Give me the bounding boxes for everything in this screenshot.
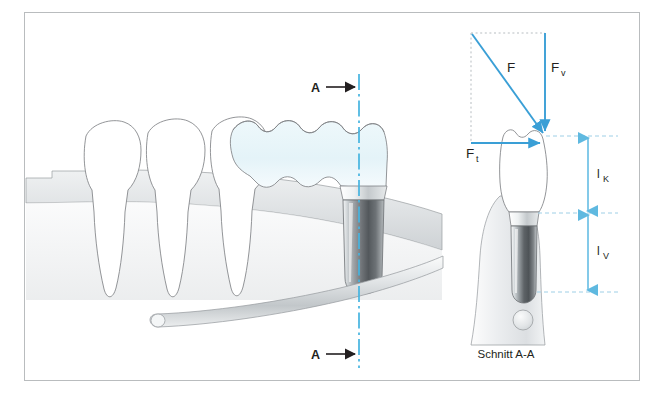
section-marker-bottom: A <box>311 348 355 362</box>
force-resultant-arrow <box>472 34 543 133</box>
nerve-canal-section <box>513 310 533 330</box>
force-tangential-label: F <box>466 146 474 161</box>
section-caption: Schnitt A-A <box>478 348 535 360</box>
section-marker-top: A <box>311 81 355 95</box>
left-jaw-view: A A <box>26 74 443 368</box>
dimension-label-lv: l <box>597 244 600 258</box>
dimension-label-lk: l <box>597 167 600 181</box>
dimension-sublabel-lv: V <box>603 251 609 261</box>
dental-bridge <box>230 121 387 189</box>
section-label-top: A <box>311 81 320 95</box>
force-resultant-label: F <box>507 60 515 75</box>
projection-lines <box>537 136 618 292</box>
section-view: F F v F t l K l V Schnitt A-A <box>466 33 618 360</box>
section-collar <box>509 212 539 226</box>
figure-page: A A <box>0 0 665 395</box>
section-implant <box>511 226 537 303</box>
dimension-sublabel-lk: K <box>603 174 609 184</box>
force-vertical-label: F <box>551 60 559 75</box>
force-vectors <box>471 33 545 143</box>
dental-implant-diagram: A A <box>0 0 665 395</box>
force-tangential-sublabel: t <box>476 154 479 164</box>
section-label-bottom: A <box>311 348 320 362</box>
dimension-lines: l K l V <box>588 138 609 290</box>
force-vertical-sublabel: v <box>561 68 566 78</box>
